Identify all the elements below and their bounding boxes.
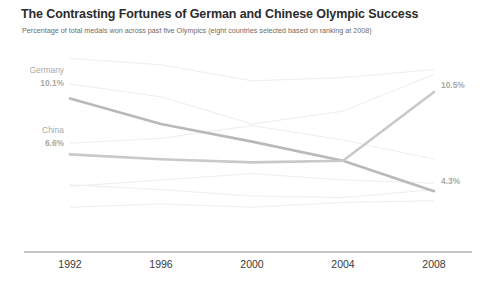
- x-tick-2004: 2004: [313, 258, 373, 270]
- x-tick-2000: 2000: [222, 258, 282, 270]
- germany-series-name: Germany: [0, 64, 64, 77]
- china-start-label: China 6.6%: [0, 124, 64, 149]
- x-tick-2008: 2008: [404, 258, 464, 270]
- germany-start-value: 10.1%: [0, 77, 64, 90]
- china-series-name: China: [0, 124, 64, 137]
- chart-page: The Contrasting Fortunes of German and C…: [0, 0, 497, 291]
- x-axis-tick-labels: 1992 1996 2000 2004 2008: [0, 0, 497, 291]
- germany-start-label: Germany 10.1%: [0, 64, 64, 89]
- china-start-value: 6.6%: [0, 137, 64, 150]
- x-tick-1996: 1996: [131, 258, 191, 270]
- china-end-value: 10.5%: [441, 80, 465, 90]
- x-tick-1992: 1992: [40, 258, 100, 270]
- germany-end-value: 4.3%: [441, 176, 460, 186]
